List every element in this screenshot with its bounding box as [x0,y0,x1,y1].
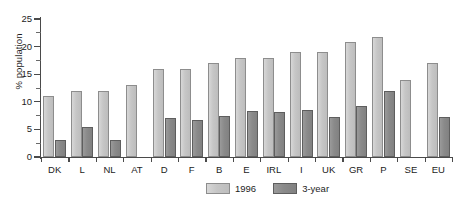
bar-1996 [71,91,82,157]
bar-3year [219,116,230,157]
x-tick [205,157,206,162]
x-tick [425,157,426,162]
bar-1996 [317,52,328,157]
x-tick [288,157,289,162]
bar-1996 [263,58,274,157]
x-tick [260,157,261,162]
y-tick-minor [36,115,41,116]
y-tick-label: 10 [8,97,32,107]
y-axis-tick-labels: 0510152025 [2,0,32,203]
bar-1996 [208,63,219,157]
bar-1996 [427,63,438,157]
x-axis-label-eu: EU [421,164,455,175]
bar-3year [165,118,176,157]
y-tick-major [34,46,41,47]
y-tick-minor [36,60,41,61]
y-tick-label: 0 [8,152,32,162]
bar-1996 [372,37,383,157]
x-tick [370,157,371,162]
bar-1996 [126,85,137,157]
bar-1996 [43,96,54,157]
bar-1996 [98,91,109,157]
bar-1996 [235,58,246,157]
bar-3year [302,110,313,157]
bar-3year [110,140,121,157]
x-tick [233,157,234,162]
legend-entry-3-year: 3-year [273,183,329,194]
bar-3year [247,111,258,157]
y-tick-minor [36,32,41,33]
y-tick-label: 25 [8,14,32,24]
bar-3year [192,120,203,157]
y-tick-major [34,129,41,130]
y-tick-label: 20 [8,42,32,52]
bar-1996 [290,52,301,157]
bar-3year [356,106,367,157]
x-tick [397,157,398,162]
bar-1996 [180,69,191,157]
x-tick [342,157,343,162]
bar-3year [439,117,450,157]
x-tick [123,157,124,162]
legend-swatch-1996 [206,183,230,194]
x-tick [452,157,453,162]
y-tick-minor [36,143,41,144]
legend-swatch-3-year [273,183,297,194]
y-tick-major [34,74,41,75]
y-tick-label: 15 [8,69,32,79]
legend-label: 1996 [235,183,256,194]
y-tick-major [34,18,41,19]
legend-entry-1996: 1996 [206,183,256,194]
x-tick [41,157,42,162]
y-tick-label: 5 [8,124,32,134]
y-tick-major [34,156,41,157]
bar-1996 [345,42,356,157]
bar-1996 [153,69,164,157]
bar-1996 [400,80,411,157]
x-tick [178,157,179,162]
chart-legend: 19963-year [206,183,329,194]
bar-3year [384,91,395,157]
legend-label: 3-year [302,183,329,194]
x-tick [315,157,316,162]
x-tick [96,157,97,162]
bar-3year [82,127,93,157]
bar-3year [274,112,285,157]
y-tick-major [34,101,41,102]
bar-3year [55,140,66,157]
x-tick [151,157,152,162]
x-tick [68,157,69,162]
bar-chart-figure: % population 0510152025 DKLNLATDFBEIRLIU… [0,0,456,203]
bar-3year [329,117,340,157]
y-tick-minor [36,88,41,89]
